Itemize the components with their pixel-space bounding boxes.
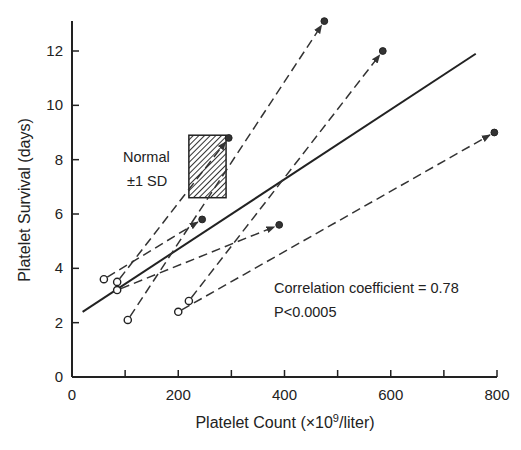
after-point-filled-circle	[321, 18, 328, 25]
before-point-open-circle	[114, 278, 121, 285]
y-axis-title: Platelet Survival (days)	[16, 118, 33, 282]
plot-area: 0246810120200400600800	[46, 18, 509, 403]
y-tick-label: 0	[55, 368, 63, 385]
y-tick-label: 12	[46, 42, 63, 59]
after-point-filled-circle	[491, 129, 498, 136]
normal-label-line1: Normal	[123, 149, 170, 165]
after-point-filled-circle	[276, 221, 283, 228]
x-tick-label: 400	[272, 386, 297, 403]
x-axis-title-suffix: /liter)	[339, 414, 375, 431]
after-point-filled-circle	[379, 48, 386, 55]
y-tick-label: 10	[46, 96, 63, 113]
x-tick-label: 800	[484, 386, 509, 403]
before-point-open-circle	[175, 308, 182, 315]
p-value-annotation: P<0.0005	[274, 304, 337, 320]
y-tick-label: 4	[55, 259, 63, 276]
before-point-open-circle	[185, 297, 192, 304]
x-tick-label: 200	[166, 386, 191, 403]
scatter-chart: 0246810120200400600800 Platelet Survival…	[0, 0, 521, 450]
before-point-open-circle	[100, 276, 107, 283]
correlation-annotation: Correlation coefficient = 0.78	[274, 280, 459, 296]
x-axis-title-prefix: Platelet Count (×10	[195, 414, 333, 431]
x-tick-label: 600	[378, 386, 403, 403]
y-tick-label: 6	[55, 205, 63, 222]
normal-label-line2: ±1 SD	[127, 173, 167, 189]
before-point-open-circle	[124, 316, 131, 323]
after-point-filled-circle	[225, 135, 232, 142]
after-point-filled-circle	[199, 216, 206, 223]
before-point-open-circle	[114, 286, 121, 293]
x-tick-label: 0	[68, 386, 76, 403]
paired-change-arrow	[130, 25, 322, 316]
x-axis-title: Platelet Count (×109/liter)	[195, 412, 374, 431]
y-tick-label: 8	[55, 151, 63, 168]
paired-change-arrow	[107, 222, 198, 277]
y-tick-label: 2	[55, 314, 63, 331]
